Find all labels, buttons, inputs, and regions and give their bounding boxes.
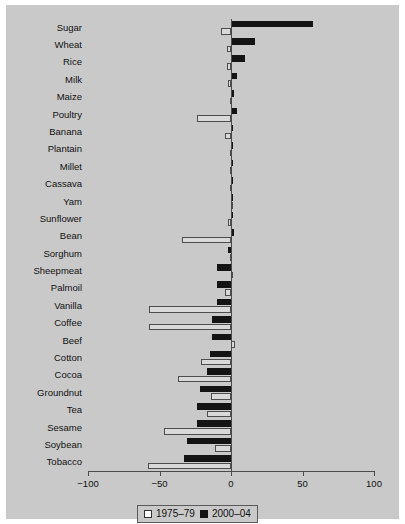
category-label: Banana: [49, 127, 82, 137]
legend-label-new: 2000–04: [212, 508, 251, 519]
category-label: Palmoil: [51, 283, 82, 293]
bar-new: [217, 281, 231, 288]
chart-figure: SugarWheatRiceMilkMaizePoultryBananaPlan…: [0, 0, 405, 524]
category-label: Sunflower: [40, 214, 82, 224]
black-square-icon: [200, 510, 208, 518]
bar-new: [217, 264, 231, 271]
x-tick-label: 100: [354, 478, 394, 489]
x-tick: [303, 471, 304, 476]
x-tick: [231, 471, 232, 476]
category-label: Wheat: [55, 40, 82, 50]
x-tick: [88, 471, 89, 476]
bar-old: [211, 393, 231, 400]
category-label: Plantain: [48, 144, 82, 154]
bar-old: [201, 359, 231, 366]
category-label: Bean: [60, 231, 82, 241]
chart-legend: 1975–79 2000–04: [137, 505, 258, 523]
category-label: Millet: [60, 162, 82, 172]
bar-old: [149, 324, 231, 331]
bar-new: [231, 21, 313, 28]
bar-old: [149, 306, 231, 313]
category-label: Cassava: [45, 179, 82, 189]
legend-item-new: 2000–04: [200, 508, 251, 519]
category-label: Cotton: [54, 353, 82, 363]
category-label: Soybean: [44, 440, 82, 450]
category-label: Sugar: [57, 23, 82, 33]
category-label: Sesame: [47, 423, 82, 433]
legend-label-old: 1975–79: [156, 508, 195, 519]
chart-panel: SugarWheatRiceMilkMaizePoultryBananaPlan…: [6, 5, 399, 519]
bar-old: [221, 28, 231, 35]
legend-item-old: 1975–79: [144, 508, 195, 519]
bar-new: [207, 368, 231, 375]
category-label: Tobacco: [47, 457, 82, 467]
bar-old: [197, 115, 231, 122]
bar-old: [182, 237, 231, 244]
bar-new: [212, 334, 231, 341]
x-tick-label: 50: [283, 478, 323, 489]
x-tick: [160, 471, 161, 476]
bar-new: [217, 299, 231, 306]
category-label: Sheepmeat: [33, 266, 82, 276]
x-tick-label: −100: [68, 478, 108, 489]
bar-new: [210, 351, 231, 358]
category-label: Maize: [57, 92, 82, 102]
x-tick: [374, 471, 375, 476]
bar-new: [197, 403, 231, 410]
category-label: Rice: [63, 57, 82, 67]
bar-old: [148, 463, 231, 470]
category-axis-labels: SugarWheatRiceMilkMaizePoultryBananaPlan…: [6, 19, 82, 471]
zero-axis-line: [231, 19, 232, 471]
category-label: Coffee: [54, 318, 82, 328]
bar-new: [200, 386, 231, 393]
white-square-icon: [144, 510, 152, 518]
bar-new: [231, 55, 245, 62]
category-label: Milk: [65, 75, 82, 85]
category-label: Tea: [67, 405, 82, 415]
bar-new: [187, 438, 231, 445]
category-label: Cocoa: [55, 370, 82, 380]
bar-old: [215, 445, 231, 452]
bar-old: [164, 428, 231, 435]
bar-old: [207, 411, 231, 418]
category-label: Beef: [62, 336, 82, 346]
bar-new: [184, 455, 231, 462]
bar-new: [197, 420, 231, 427]
category-label: Groundnut: [37, 388, 82, 398]
x-tick-label: −50: [140, 478, 180, 489]
category-label: Vanilla: [54, 301, 82, 311]
bar-new: [212, 316, 231, 323]
bar-new: [231, 38, 255, 45]
category-label: Poultry: [52, 110, 82, 120]
category-label: Sorghum: [43, 249, 82, 259]
category-label: Yam: [63, 197, 82, 207]
bar-old: [178, 376, 231, 383]
x-tick-label: 0: [211, 478, 251, 489]
